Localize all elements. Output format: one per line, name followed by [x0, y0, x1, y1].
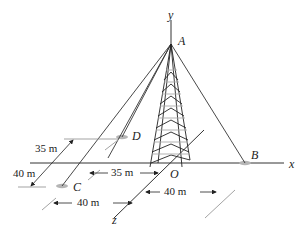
tower-diagram: [0, 0, 304, 237]
point-b-label: B: [251, 149, 258, 161]
z-axis-label: z: [112, 214, 117, 226]
x-axis-label: x: [289, 158, 294, 170]
dimension-35m-horizontal: 35 m: [110, 167, 134, 178]
tower: [150, 44, 190, 167]
y-axis-label: y: [168, 9, 173, 21]
dimension-40m-left: 40 m: [76, 197, 100, 208]
point-d-label: D: [132, 130, 141, 142]
origin-label: O: [170, 168, 179, 180]
point-a-label: A: [178, 35, 185, 47]
cable-ab: [171, 44, 245, 163]
dimension-40m-vertical: 40 m: [12, 168, 36, 179]
dimension-40m-right: 40 m: [163, 186, 187, 197]
dimension-35m-vertical: 35 m: [34, 143, 58, 154]
cable-ac: [62, 44, 171, 186]
point-c-label: C: [73, 181, 81, 193]
